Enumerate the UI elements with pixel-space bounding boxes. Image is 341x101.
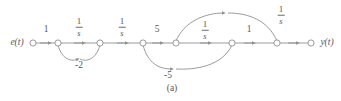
fraction-denominator: s [202,31,209,40]
signal-flow-graph-figure: e(t) y(t) 1 5 1 -2 -5 1 s 1 s 1 s 1 s (a… [0,0,341,101]
node-3[interactable] [140,40,146,46]
node-5[interactable] [229,40,235,46]
branch-label-gain-1: 1 [247,25,252,35]
arc-feedback-minus-5-right [176,45,232,69]
output-label: y(t) [320,38,333,48]
branch-label-gain-5: 5 [155,25,160,35]
fraction-denominator: s [119,28,126,37]
fraction-numerator: 1 [119,17,126,27]
figure-caption: (a) [167,84,178,94]
fraction-denominator: s [278,16,285,25]
branch-label-feedback-minus-5: -5 [164,71,172,81]
branch-label-feedback-integrator-top: 1 s [278,5,285,26]
branch-label-integrator-1: 1 s [76,17,83,38]
node-4[interactable] [173,40,179,46]
arc-feedback-minus-5-left [143,45,172,69]
input-label: e(t) [10,38,23,48]
fraction-numerator: 1 [202,20,209,30]
arc-feedback-top-right [228,13,277,41]
branch-label-feedback-minus-2: -2 [75,61,83,71]
node-6[interactable] [274,40,280,46]
output-node[interactable] [308,40,314,46]
arc-feedback-top-left [176,13,224,41]
branch-label-integrator-3: 1 s [202,20,209,41]
fraction-numerator: 1 [278,5,285,15]
node-2[interactable] [97,40,103,46]
branch-label-integrator-2: 1 s [119,17,126,38]
fraction-numerator: 1 [76,17,83,27]
branch-label-input-gain: 1 [44,25,49,35]
node-1[interactable] [55,40,61,46]
fraction-denominator: s [76,28,83,37]
arc-feedback-minus-2-left [58,45,78,60]
input-node[interactable] [30,40,36,46]
arc-feedback-minus-2-right [80,45,100,60]
